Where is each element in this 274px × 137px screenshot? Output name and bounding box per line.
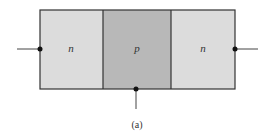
right-terminal-dot [233, 47, 238, 52]
bottom-terminal-dot [134, 87, 139, 92]
npn-transistor-diagram: n p n (a) [0, 0, 274, 137]
region-label-p: p [133, 42, 140, 54]
figure-caption: (a) [131, 119, 142, 131]
region-label-n-left: n [68, 42, 74, 54]
left-terminal-dot [38, 47, 43, 52]
region-label-n-right: n [200, 42, 206, 54]
